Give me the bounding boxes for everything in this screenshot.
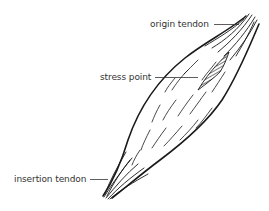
stress-point-region [198,52,229,90]
insertion-tendon-fibers [104,152,148,199]
muscle-diagram: origin tendon stress point insertion ten… [0,0,269,211]
origin-tendon-label: origin tendon [150,19,209,30]
origin-tendon-fibers [205,14,257,60]
insertion-tendon-label: insertion tendon [14,174,86,185]
stress-point-label: stress point [100,72,151,83]
